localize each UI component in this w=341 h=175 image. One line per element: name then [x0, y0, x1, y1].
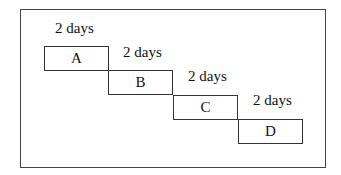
- task-box-c: C: [173, 95, 238, 120]
- task-box-d: D: [238, 119, 303, 144]
- task-label-d: D: [265, 123, 276, 140]
- task-label-c: C: [200, 99, 210, 116]
- duration-label-b: 2 days: [123, 44, 162, 61]
- task-label-a: A: [71, 50, 82, 67]
- task-label-b: B: [135, 74, 145, 91]
- duration-label-a: 2 days: [55, 20, 94, 37]
- duration-label-d: 2 days: [253, 92, 292, 109]
- task-box-b: B: [108, 70, 173, 95]
- task-box-a: A: [44, 46, 109, 71]
- duration-label-c: 2 days: [188, 68, 227, 85]
